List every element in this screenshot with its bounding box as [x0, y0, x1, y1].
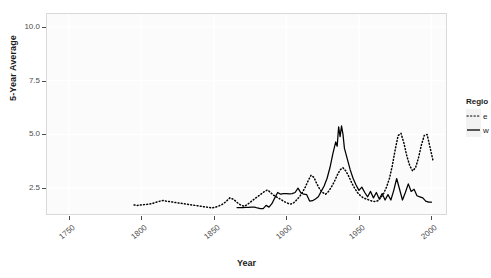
- y-tick-mark: [42, 81, 46, 82]
- y-tick-mark: [42, 134, 46, 135]
- y-tick-5.0: 5.0: [0, 129, 40, 138]
- legend-title: Regio: [466, 97, 491, 106]
- chart-figure: 5-Year Average 2.55.07.510.0 17501800185…: [0, 0, 491, 278]
- x-tick-1800: 1800: [113, 223, 149, 256]
- y-tick-2.5: 2.5: [0, 183, 40, 192]
- legend: Regio e w: [466, 97, 491, 137]
- legend-label-e: e: [483, 112, 487, 121]
- series-e: [134, 133, 433, 208]
- y-axis: 5-Year Average: [0, 0, 40, 278]
- x-tick-mark: [286, 216, 287, 220]
- x-tick-2000: 2000: [403, 223, 439, 256]
- x-tick-1750: 1750: [40, 223, 76, 256]
- x-tick-1900: 1900: [258, 223, 294, 256]
- x-axis-label: Year: [46, 258, 447, 268]
- y-tick-10.0: 10.0: [0, 22, 40, 31]
- legend-key-solid: [466, 123, 481, 137]
- legend-label-w: w: [483, 126, 489, 135]
- y-tick-mark: [42, 188, 46, 189]
- legend-key-dotted: [466, 109, 481, 123]
- x-tick-mark: [141, 216, 142, 220]
- x-tick-1950: 1950: [330, 223, 366, 256]
- plot-svg: [47, 14, 446, 214]
- x-tick-mark: [69, 216, 70, 220]
- x-tick-mark: [359, 216, 360, 220]
- y-tick-mark: [42, 27, 46, 28]
- series-w: [237, 126, 431, 209]
- x-tick-mark: [214, 216, 215, 220]
- legend-item-e[interactable]: e: [466, 109, 491, 123]
- y-tick-7.5: 7.5: [0, 76, 40, 85]
- x-tick-1850: 1850: [185, 223, 221, 256]
- plot-panel: [46, 13, 447, 215]
- x-tick-mark: [431, 216, 432, 220]
- legend-item-w[interactable]: w: [466, 123, 491, 137]
